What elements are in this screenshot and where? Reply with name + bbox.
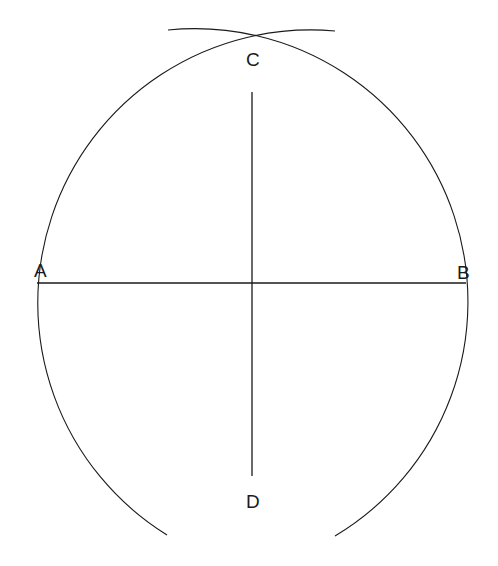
construction-diagram: A B C D: [0, 0, 498, 566]
label-d: D: [246, 491, 260, 512]
label-c: C: [246, 49, 260, 70]
label-a: A: [34, 260, 47, 281]
label-b: B: [457, 262, 470, 283]
